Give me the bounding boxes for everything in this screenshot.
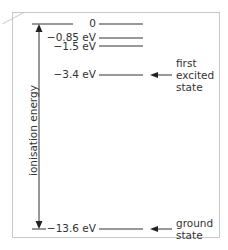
level-label-1.5: −1.5 eV [36,41,96,52]
level-label-0: 0 [56,18,96,29]
ionisation-energy-label: ionisation energy [27,85,39,176]
ground-line2: state [176,229,213,241]
first-excited-line2: excited [176,69,214,81]
level-label-3.4: −3.4 eV [36,69,96,80]
ground-line1: ground [176,217,213,229]
first-excited-line1: first [176,57,214,69]
level-label-13.6: −13.6 eV [36,223,96,234]
first-excited-line3: state [176,81,214,93]
ground-state-label: ground state [176,217,213,241]
arrow-up-head-icon [36,24,43,32]
arrow-left-head-icon [150,72,158,78]
first-excited-state-label: first excited state [176,57,214,93]
arrow-left-head-icon [150,226,158,232]
